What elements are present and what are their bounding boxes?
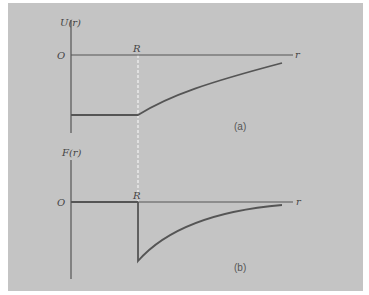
panel-b: F(r) O r R (b)	[57, 147, 302, 279]
panel-a-y-label: U(r)	[60, 17, 81, 28]
panel-b-x-label: r	[296, 196, 302, 207]
panel-a-caption: (a)	[234, 121, 246, 132]
panel-b-caption: (b)	[234, 262, 246, 273]
panel-a: U(r) O r R (a)	[57, 17, 301, 133]
panel-a-x-label: r	[295, 49, 301, 60]
panel-a-origin-label: O	[57, 50, 65, 61]
panel-b-origin-label: O	[57, 197, 65, 208]
panel-b-y-label: F(r)	[61, 147, 82, 158]
panel-a-r-marker-label: R	[132, 43, 141, 54]
panel-b-r-marker-label: R	[132, 190, 141, 201]
panel-a-potential-curve	[71, 63, 282, 115]
panel-b-force-curve	[138, 202, 282, 261]
figure: U(r) O r R (a) F(r) O r R (b)	[0, 0, 369, 295]
